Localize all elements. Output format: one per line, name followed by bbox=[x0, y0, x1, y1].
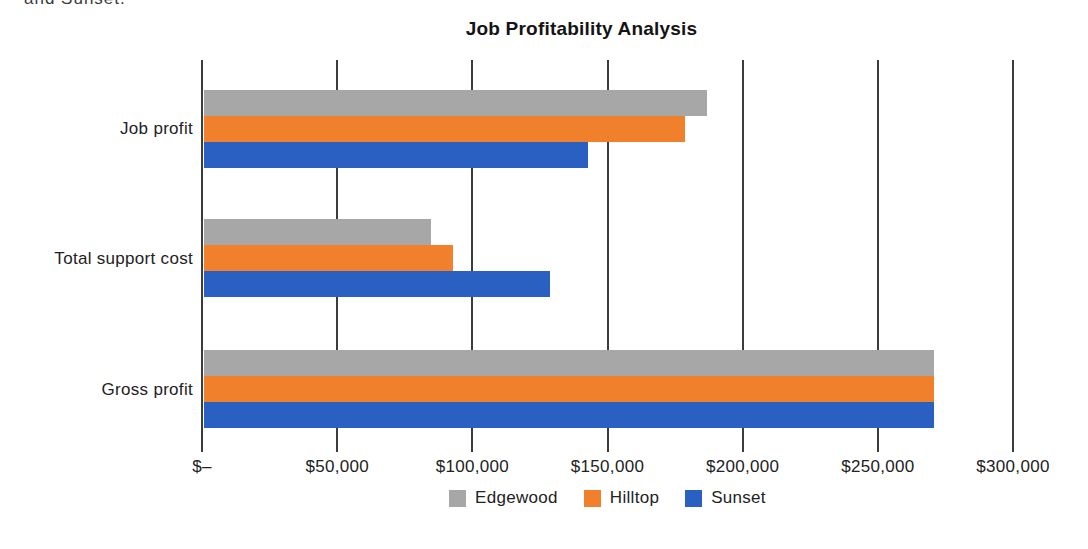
bar-sunset-job-profit bbox=[204, 142, 588, 168]
x-tick-label: $– bbox=[132, 457, 272, 477]
legend-swatch-icon bbox=[685, 490, 702, 507]
x-tick-label: $150,000 bbox=[538, 457, 678, 477]
category-label-gross-profit: Gross profit bbox=[0, 380, 193, 400]
x-tick-label: $50,000 bbox=[267, 457, 407, 477]
chart-title: Job Profitability Analysis bbox=[176, 18, 987, 40]
legend-label: Hilltop bbox=[610, 488, 659, 508]
gridline bbox=[201, 60, 203, 452]
legend-swatch-icon bbox=[449, 490, 466, 507]
x-tick-label: $100,000 bbox=[402, 457, 542, 477]
legend-item-edgewood: Edgewood bbox=[449, 488, 558, 508]
gridline bbox=[1012, 60, 1014, 452]
bar-edgewood-total-support-cost bbox=[204, 219, 431, 245]
scanned-chart-page: and Sunset. Job Profitability Analysis J… bbox=[0, 0, 1088, 549]
bar-hilltop-gross-profit bbox=[204, 376, 934, 402]
bar-edgewood-gross-profit bbox=[204, 350, 934, 376]
legend-label: Edgewood bbox=[475, 488, 558, 508]
legend-item-hilltop: Hilltop bbox=[584, 488, 659, 508]
category-label-total-support-cost: Total support cost bbox=[0, 249, 193, 269]
legend-label: Sunset bbox=[711, 488, 766, 508]
plot-area bbox=[202, 60, 1013, 443]
category-label-job-profit: Job profit bbox=[0, 119, 193, 139]
bar-hilltop-total-support-cost bbox=[204, 245, 453, 271]
x-tick-label: $200,000 bbox=[673, 457, 813, 477]
legend: EdgewoodHilltopSunset bbox=[202, 488, 1013, 508]
bar-sunset-gross-profit bbox=[204, 402, 934, 428]
legend-swatch-icon bbox=[584, 490, 601, 507]
x-tick-label: $300,000 bbox=[943, 457, 1083, 477]
bar-edgewood-job-profit bbox=[204, 90, 707, 116]
cropped-text: and Sunset. bbox=[24, 0, 126, 8]
bar-sunset-total-support-cost bbox=[204, 271, 550, 297]
x-tick-label: $250,000 bbox=[808, 457, 948, 477]
legend-item-sunset: Sunset bbox=[685, 488, 766, 508]
cropped-text-fragment: and Sunset. bbox=[24, 0, 126, 8]
bar-hilltop-job-profit bbox=[204, 116, 685, 142]
